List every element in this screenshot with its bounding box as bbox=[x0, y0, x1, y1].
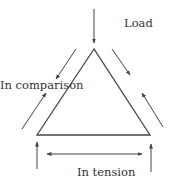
truss-force-diagram: Load In comparison In tension bbox=[0, 0, 170, 187]
left-compression-arrow-top bbox=[56, 49, 76, 79]
compression-label: In comparison bbox=[0, 78, 84, 92]
right-compression-arrow-top bbox=[112, 49, 130, 75]
right-compression-arrow-bottom bbox=[142, 93, 163, 127]
left-compression-arrow-bottom bbox=[22, 93, 46, 129]
triangle-truss bbox=[37, 49, 150, 135]
tension-label: In tension bbox=[77, 165, 136, 179]
load-label: Load bbox=[124, 16, 153, 30]
